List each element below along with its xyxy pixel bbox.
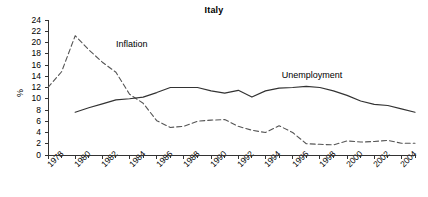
plot-area — [0, 0, 428, 197]
axes — [45, 20, 415, 159]
chart-container: Italy % 024681012141618202224 1978198019… — [0, 0, 428, 197]
series-line-inflation — [48, 36, 415, 145]
data-series — [48, 36, 415, 145]
series-line-unemployment — [75, 86, 415, 112]
